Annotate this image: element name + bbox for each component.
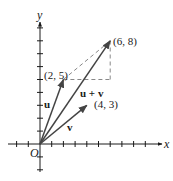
x-axis-label: x [163, 137, 170, 151]
point-label-2-5: (2, 5) [44, 69, 68, 82]
point-label-6-8: (6, 8) [113, 35, 137, 48]
y-axis-label: y [36, 8, 43, 22]
dashed-line-u-to-sum [63, 41, 110, 80]
dashed-guides [63, 41, 110, 80]
point-label-4-3: (4, 3) [94, 98, 118, 111]
vector-diagram: x y O u v u + v (2, 5) [0, 0, 173, 181]
origin-label: O [30, 146, 39, 160]
vector-v-label: v [67, 121, 73, 133]
vector-u-label: u [44, 98, 50, 110]
